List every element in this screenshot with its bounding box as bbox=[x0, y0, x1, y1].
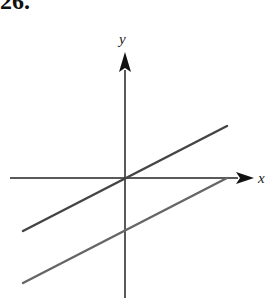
y-axis-label: y bbox=[117, 31, 126, 47]
x-axis-arrow-icon bbox=[236, 172, 254, 184]
coordinate-diagram: x y bbox=[0, 0, 265, 302]
x-axis-label: x bbox=[257, 170, 265, 186]
y-axis-arrow-icon bbox=[119, 52, 131, 72]
